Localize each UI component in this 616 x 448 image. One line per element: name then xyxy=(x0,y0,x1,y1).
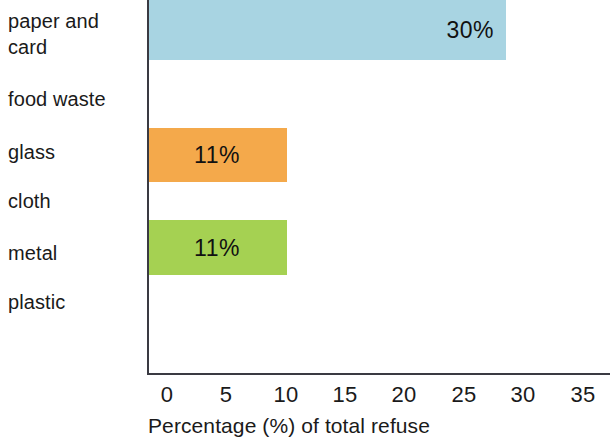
x-tick-15: 15 xyxy=(333,381,358,409)
bar-fill-glass: 11% xyxy=(147,128,287,182)
bar-paper-and-card: 30% xyxy=(147,0,506,60)
category-label-metal: metal xyxy=(8,240,144,266)
category-label-plastic: plastic xyxy=(8,289,144,315)
x-axis-tick-labels: 0 5 10 15 20 25 30 35 xyxy=(0,381,616,411)
bar-value-paper-and-card: 30% xyxy=(446,17,494,44)
bar-chart: paper and card food waste glass cloth me… xyxy=(0,0,616,448)
x-tick-20: 20 xyxy=(392,381,417,409)
plot-area: 30% 11% 11% xyxy=(147,0,610,375)
bar-value-metal: 11% xyxy=(194,234,240,261)
bar-value-glass: 11% xyxy=(194,142,240,169)
x-tick-10: 10 xyxy=(274,381,299,409)
x-axis-title: Percentage (%) of total refuse xyxy=(148,412,430,440)
bar-metal: 11% xyxy=(147,220,287,275)
category-label-food-waste: food waste xyxy=(8,86,144,112)
bar-fill-metal: 11% xyxy=(147,220,287,275)
bar-glass: 11% xyxy=(147,128,287,182)
x-tick-30: 30 xyxy=(511,381,536,409)
bar-fill-paper-and-card: 30% xyxy=(147,0,506,60)
category-label-glass: glass xyxy=(8,139,144,165)
x-tick-35: 35 xyxy=(571,381,596,409)
x-tick-25: 25 xyxy=(452,381,477,409)
x-axis-line xyxy=(147,373,610,375)
category-label-paper-and-card: paper and card xyxy=(8,8,144,60)
x-tick-0: 0 xyxy=(161,381,173,409)
category-label-cloth: cloth xyxy=(8,188,144,214)
category-axis-labels: paper and card food waste glass cloth me… xyxy=(0,0,142,375)
x-tick-5: 5 xyxy=(220,381,232,409)
y-axis-line xyxy=(147,0,149,375)
